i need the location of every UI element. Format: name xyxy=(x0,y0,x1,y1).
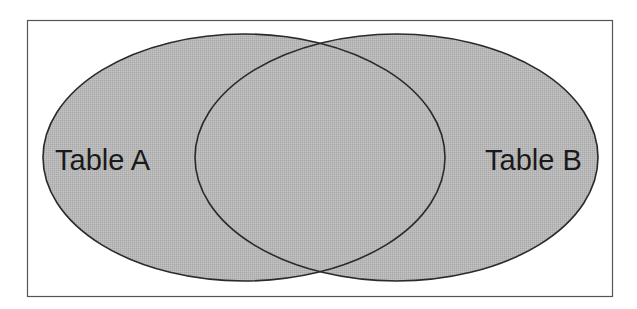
set-b-label: Table B xyxy=(485,144,582,176)
set-a-label: Table A xyxy=(55,144,151,176)
venn-diagram: Table A Table B xyxy=(0,0,637,309)
